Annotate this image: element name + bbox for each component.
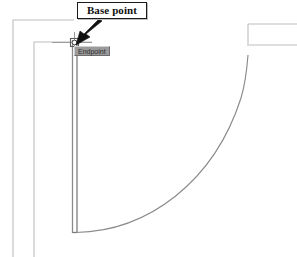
cad-drawing-canvas[interactable] [0,0,297,257]
base-point-callout-box: Base point [77,2,147,19]
outer-wall-left-vertical[interactable] [13,20,74,257]
cad-screenshot: Base point Endpoint [0,0,297,257]
inner-wall-left-vertical[interactable] [34,42,74,257]
callout-arrow-icon [76,19,102,45]
door-swing-arc[interactable] [76,55,248,233]
osnap-tooltip: Endpoint [74,46,110,56]
base-point-callout-label: Base point [87,5,137,16]
osnap-tooltip-label: Endpoint [78,48,106,55]
